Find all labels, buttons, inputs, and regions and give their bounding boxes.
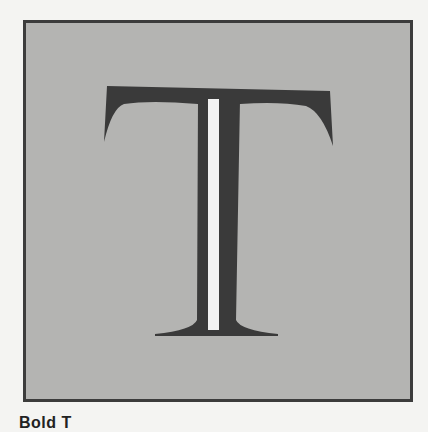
highlight-stripe [208,99,219,330]
figure-caption: Bold T [19,414,72,432]
